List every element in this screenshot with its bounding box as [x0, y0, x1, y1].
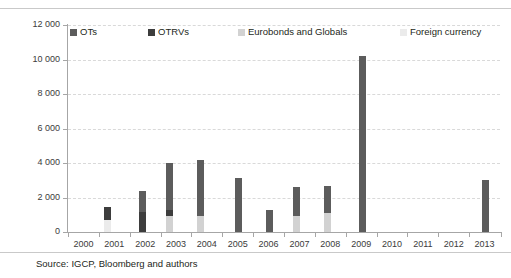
legend-item-label: OTRVs: [158, 27, 189, 37]
y-axis-tick-label: 8 000: [0, 89, 60, 98]
y-axis-tick-label: 4 000: [0, 158, 60, 167]
x-axis-tick-label: 2001: [97, 239, 131, 249]
x-axis-tick-label: 2013: [468, 239, 502, 249]
legend-item-eurobonds-and-globals[interactable]: Eurobonds and Globals: [238, 27, 347, 37]
x-axis-tick: [407, 232, 408, 237]
legend-item-otrvs[interactable]: OTRVs: [148, 27, 189, 37]
bar-2013-ots: [482, 180, 489, 232]
plot-area: [68, 25, 500, 232]
legend-swatch-icon: [70, 29, 77, 36]
y-axis-tick-label: 2 000: [0, 193, 60, 202]
legend-swatch-icon: [400, 29, 407, 36]
source-caption: Source: IGCP, Bloomberg and authors: [36, 258, 197, 270]
y-axis-tick-label: 6 000: [0, 124, 60, 133]
legend-swatch-icon: [238, 29, 245, 36]
x-axis-tick: [68, 232, 69, 237]
top-divider: [0, 8, 511, 9]
x-axis-tick: [315, 232, 316, 237]
bar-2005-ots: [235, 178, 242, 232]
bar-2001-foreign-currency: [104, 220, 111, 232]
x-axis-tick: [346, 232, 347, 237]
x-axis-tick-label: 2002: [128, 239, 162, 249]
x-axis-tick-label: 2003: [159, 239, 193, 249]
legend-item-foreign-currency[interactable]: Foreign currency: [400, 27, 481, 37]
figure-container: 12 00010 0008 0006 0004 0002 0000 200020…: [0, 0, 511, 278]
legend-item-label: Foreign currency: [410, 27, 481, 37]
legend-swatch-icon: [148, 29, 155, 36]
x-axis-tick-label: 2012: [437, 239, 471, 249]
y-axis-tick-label: 0: [0, 227, 60, 236]
x-axis-tick-label: 2011: [406, 239, 440, 249]
x-axis-tick: [284, 232, 285, 237]
x-axis-tick-label: 2006: [252, 239, 286, 249]
x-axis-tick-label: 2000: [66, 239, 100, 249]
x-axis-tick: [253, 232, 254, 237]
x-axis-tick: [469, 232, 470, 237]
bar-2007-eurobonds-and-globals: [293, 216, 300, 232]
bar-2003-eurobonds-and-globals: [166, 216, 173, 232]
chart-legend: OTsOTRVsEurobonds and GlobalsForeign cur…: [70, 27, 500, 37]
x-axis-tick: [161, 232, 162, 237]
bar-2006-ots: [266, 210, 273, 232]
y-axis-tick-label: 12 000: [0, 20, 60, 29]
x-axis-tick: [130, 232, 131, 237]
legend-item-ots[interactable]: OTs: [70, 27, 97, 37]
x-axis-tick: [191, 232, 192, 237]
legend-item-label: Eurobonds and Globals: [248, 27, 347, 37]
bar-2002-otrvs: [139, 212, 146, 232]
x-axis-tick: [222, 232, 223, 237]
legend-item-label: OTs: [80, 27, 97, 37]
x-axis-tick-label: 2005: [221, 239, 255, 249]
x-axis-tick-label: 2009: [344, 239, 378, 249]
x-axis-tick: [377, 232, 378, 237]
x-axis-tick: [438, 232, 439, 237]
x-axis-tick: [99, 232, 100, 237]
bar-2009-ots: [359, 56, 366, 232]
x-axis-tick-label: 2010: [375, 239, 409, 249]
bar-2008-eurobonds-and-globals: [324, 213, 331, 232]
bar-2004-eurobonds-and-globals: [197, 216, 204, 232]
x-axis-tick: [501, 232, 502, 237]
y-axis-tick-label: 10 000: [0, 55, 60, 64]
x-axis-tick-label: 2004: [190, 239, 224, 249]
bottom-divider: [0, 252, 511, 253]
x-axis-tick-label: 2008: [313, 239, 347, 249]
x-axis-tick-label: 2007: [282, 239, 316, 249]
